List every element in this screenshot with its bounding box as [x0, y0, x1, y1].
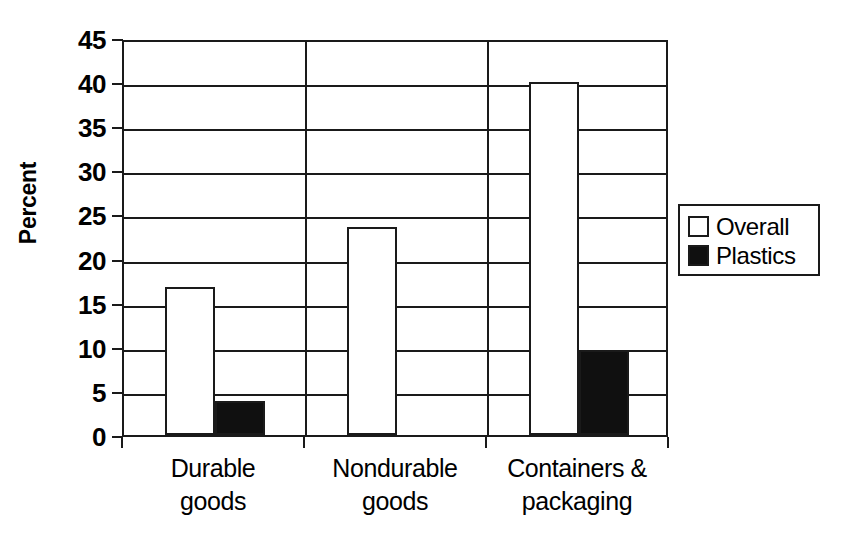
bar-overall-0[interactable] [165, 287, 215, 435]
y-axis-tick-mark [112, 83, 123, 85]
x-axis-category-label-line: packaging [468, 485, 686, 518]
y-axis-tick-label: 25 [46, 203, 106, 229]
y-axis-tick-label: 20 [46, 248, 106, 274]
y-axis-tick-mark [112, 260, 123, 262]
y-axis-tick-label: 30 [46, 159, 106, 185]
legend-label-plastics: Plastics [716, 244, 796, 268]
x-axis-tick-mark [485, 437, 487, 448]
y-axis-tick-mark [112, 215, 123, 217]
category-divider [487, 42, 489, 435]
y-axis-tick-label: 15 [46, 292, 106, 318]
plot-area [122, 40, 668, 437]
bar-chart: Percent 051015202530354045 DurablegoodsN… [0, 0, 847, 556]
y-axis-tick-label: 45 [46, 27, 106, 53]
gridline [124, 129, 666, 131]
bar-plastics-2[interactable] [579, 350, 629, 435]
bar-plastics-0[interactable] [215, 401, 265, 435]
x-axis-tick-mark [303, 437, 305, 448]
gridline [124, 217, 666, 219]
legend-item-plastics[interactable]: Plastics [688, 241, 818, 270]
category-divider [305, 42, 307, 435]
y-axis-tick-mark [112, 39, 123, 41]
y-axis-tick-mark [112, 171, 123, 173]
x-axis-category-label-line: Containers & [468, 452, 686, 485]
x-axis-category-label-group: DurablegoodsNondurablegoodsContainers &p… [122, 452, 668, 542]
y-axis-title: Percent [15, 153, 41, 253]
legend-label-overall: Overall [716, 215, 789, 239]
y-axis-tick-mark [112, 392, 123, 394]
x-axis-category-label: Containers &packaging [468, 452, 686, 518]
legend-swatch-overall-icon [688, 216, 709, 237]
y-axis-tick-mark [112, 348, 123, 350]
x-axis-tick-mark [121, 437, 123, 448]
y-axis-tick-label-group: 051015202530354045 [46, 40, 106, 437]
gridline [124, 173, 666, 175]
chart-legend: Overall Plastics [678, 204, 820, 276]
legend-item-overall[interactable]: Overall [688, 212, 818, 241]
legend-swatch-plastics-icon [688, 245, 709, 266]
y-axis-tick-label: 35 [46, 115, 106, 141]
y-axis-tick-mark [112, 304, 123, 306]
bar-overall-1[interactable] [347, 227, 397, 435]
x-axis-tick-mark [667, 437, 669, 448]
y-axis-tick-mark [112, 127, 123, 129]
bar-overall-2[interactable] [529, 82, 579, 435]
gridline [124, 85, 666, 87]
y-axis-tick-label: 0 [46, 424, 106, 450]
y-axis-tick-label: 40 [46, 71, 106, 97]
y-axis-tick-label: 5 [46, 380, 106, 406]
y-axis-tick-label: 10 [46, 336, 106, 362]
